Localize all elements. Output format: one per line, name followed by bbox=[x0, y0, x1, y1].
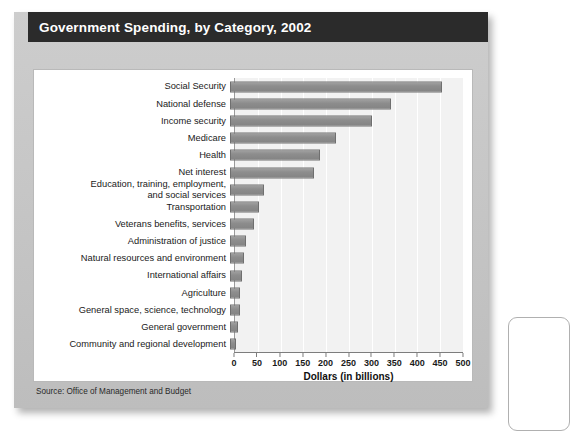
bar bbox=[230, 305, 240, 316]
category-label: International affairs bbox=[34, 270, 230, 281]
plot-panel: Social SecurityNational defenseIncome se… bbox=[33, 69, 473, 382]
x-tick: 450 bbox=[433, 353, 448, 368]
side-panel-decoration bbox=[508, 317, 570, 431]
bar-track bbox=[230, 130, 463, 147]
x-tick-mark bbox=[417, 353, 418, 357]
bar-row: Transportation bbox=[34, 198, 463, 215]
category-label: Social Security bbox=[34, 81, 230, 92]
x-tick-label: 450 bbox=[433, 358, 448, 368]
bar-row: General government bbox=[34, 319, 463, 336]
bar-track bbox=[230, 181, 463, 198]
bar-track bbox=[230, 301, 463, 318]
bar-track bbox=[230, 78, 463, 95]
bar-row: Medicare bbox=[34, 130, 463, 147]
x-tick: 150 bbox=[295, 353, 310, 368]
category-label: Net interest bbox=[34, 167, 230, 178]
x-tick-label: 150 bbox=[295, 358, 310, 368]
x-tick: 200 bbox=[318, 353, 333, 368]
bar-row: International affairs bbox=[34, 267, 463, 284]
category-label: General space, science, technology bbox=[34, 305, 230, 316]
x-tick-mark bbox=[394, 353, 395, 357]
x-tick: 300 bbox=[364, 353, 379, 368]
x-tick: 400 bbox=[410, 353, 425, 368]
bar-rows: Social SecurityNational defenseIncome se… bbox=[34, 78, 463, 353]
bar-row: Education, training, employment, and soc… bbox=[34, 181, 463, 198]
figure-card: Government Spending, by Category, 2002 S… bbox=[14, 12, 488, 408]
bar-track bbox=[230, 216, 463, 233]
bar-row: Social Security bbox=[34, 78, 463, 95]
bar bbox=[230, 150, 320, 161]
bar bbox=[230, 339, 236, 350]
x-tick-label: 400 bbox=[410, 358, 425, 368]
bar bbox=[230, 98, 391, 109]
bar-row: General space, science, technology bbox=[34, 301, 463, 318]
category-label: Education, training, employment, and soc… bbox=[34, 179, 230, 200]
x-tick-mark bbox=[279, 353, 280, 357]
bar bbox=[230, 219, 254, 230]
bar-track bbox=[230, 233, 463, 250]
x-tick-mark bbox=[371, 353, 372, 357]
bar-row: Administration of justice bbox=[34, 233, 463, 250]
bar-row: Income security bbox=[34, 112, 463, 129]
category-label: General government bbox=[34, 322, 230, 333]
x-tick: 500 bbox=[455, 353, 470, 368]
bar-track bbox=[230, 319, 463, 336]
bar bbox=[230, 81, 442, 92]
bar bbox=[230, 236, 246, 247]
category-label: Health bbox=[34, 150, 230, 161]
category-label: Administration of justice bbox=[34, 236, 230, 247]
x-axis-ticks: 050100150200250300350400450500 bbox=[234, 353, 463, 369]
bar-track bbox=[230, 250, 463, 267]
category-label: Veterans benefits, services bbox=[34, 219, 230, 230]
category-label: Natural resources and environment bbox=[34, 253, 230, 264]
bar-row: Natural resources and environment bbox=[34, 250, 463, 267]
bar-row: National defense bbox=[34, 95, 463, 112]
bar bbox=[230, 322, 238, 333]
bar bbox=[230, 270, 242, 281]
bar bbox=[230, 167, 314, 178]
x-tick: 250 bbox=[341, 353, 356, 368]
x-tick: 100 bbox=[272, 353, 287, 368]
bar bbox=[230, 133, 336, 144]
x-tick-mark bbox=[325, 353, 326, 357]
bar-track bbox=[230, 198, 463, 215]
x-tick-label: 100 bbox=[272, 358, 287, 368]
x-tick: 350 bbox=[387, 353, 402, 368]
category-label: Income security bbox=[34, 116, 230, 127]
bar bbox=[230, 184, 264, 195]
x-tick-mark bbox=[463, 353, 464, 357]
x-tick-label: 250 bbox=[341, 358, 356, 368]
category-label: Transportation bbox=[34, 202, 230, 213]
x-tick-label: 500 bbox=[455, 358, 470, 368]
bar-track bbox=[230, 164, 463, 181]
bar bbox=[230, 287, 240, 298]
x-tick-label: 0 bbox=[231, 358, 236, 368]
bar-track bbox=[230, 336, 463, 353]
x-tick-mark bbox=[256, 353, 257, 357]
x-tick-label: 50 bbox=[252, 358, 262, 368]
category-label: National defense bbox=[34, 99, 230, 110]
x-tick-label: 200 bbox=[318, 358, 333, 368]
x-tick-label: 350 bbox=[387, 358, 402, 368]
bar bbox=[230, 253, 244, 264]
page-title: Government Spending, by Category, 2002 bbox=[28, 20, 312, 35]
x-tick-mark bbox=[440, 353, 441, 357]
bar bbox=[230, 201, 259, 212]
category-label: Community and regional development bbox=[34, 339, 230, 350]
x-tick-mark bbox=[302, 353, 303, 357]
bar-row: Health bbox=[34, 147, 463, 164]
x-tick: 0 bbox=[231, 353, 236, 368]
bar-track bbox=[230, 112, 463, 129]
category-label: Agriculture bbox=[34, 288, 230, 299]
x-tick: 50 bbox=[252, 353, 262, 368]
bar-track bbox=[230, 147, 463, 164]
x-tick-mark bbox=[233, 353, 234, 357]
bar-track bbox=[230, 267, 463, 284]
bar-row: Agriculture bbox=[34, 284, 463, 301]
gridline bbox=[463, 78, 464, 353]
source-note: Source: Office of Management and Budget bbox=[36, 387, 191, 396]
x-tick-label: 300 bbox=[364, 358, 379, 368]
bar-track bbox=[230, 95, 463, 112]
x-tick-mark bbox=[348, 353, 349, 357]
bar-row: Community and regional development bbox=[34, 336, 463, 353]
